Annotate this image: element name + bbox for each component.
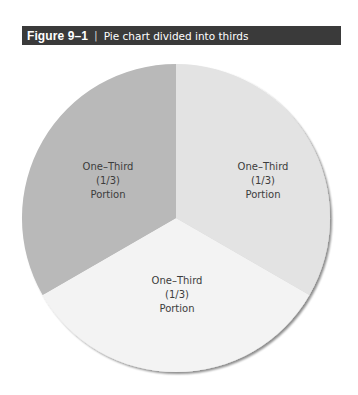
svg-text:One–Third: One–Third bbox=[152, 275, 203, 286]
pie-chart: One–Third (1/3) Portion One–Third (1/3) … bbox=[0, 0, 358, 395]
svg-text:One–Third: One–Third bbox=[238, 161, 289, 172]
svg-text:Portion: Portion bbox=[90, 189, 125, 200]
svg-text:Portion: Portion bbox=[159, 303, 194, 314]
svg-text:One–Third: One–Third bbox=[83, 161, 134, 172]
svg-text:(1/3): (1/3) bbox=[251, 175, 275, 186]
svg-text:(1/3): (1/3) bbox=[96, 175, 120, 186]
svg-text:Portion: Portion bbox=[245, 189, 280, 200]
svg-text:(1/3): (1/3) bbox=[165, 289, 189, 300]
